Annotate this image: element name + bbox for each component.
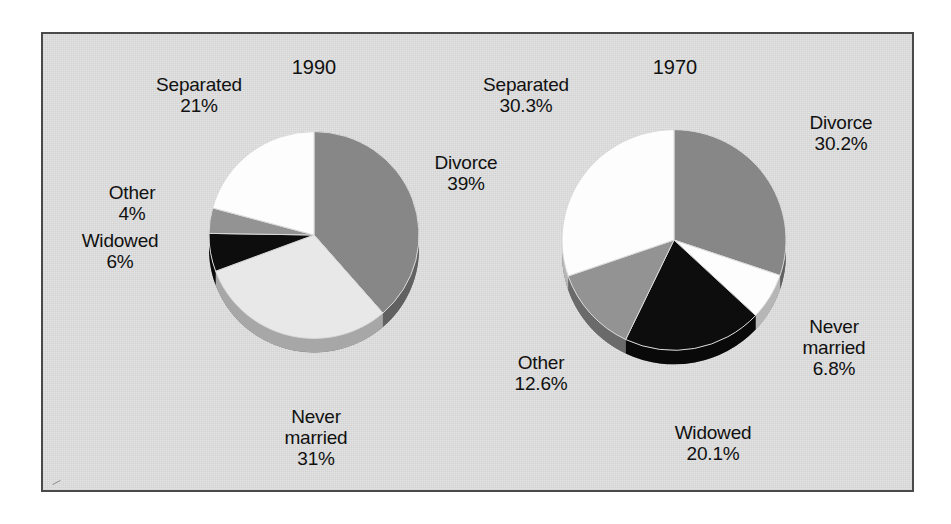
label-left-other: Other 4% <box>87 182 177 224</box>
chart-plate-frame: 1990 Separated 21% Divorce 39% Other 4% … <box>41 32 914 492</box>
label-right-widowed: Widowed 20.1% <box>643 422 783 464</box>
label-right-divorce: Divorce 30.2% <box>781 112 901 154</box>
label-right-separated: Separated 30.3% <box>451 74 601 116</box>
label-left-never-married: Never married 31% <box>256 406 376 469</box>
chart-title-right: 1970 <box>615 56 735 78</box>
pie-1970 <box>562 130 786 365</box>
label-left-widowed: Widowed 6% <box>55 230 185 272</box>
label-left-separated: Separated 21% <box>129 74 269 116</box>
figure-root: 1990 Separated 21% Divorce 39% Other 4% … <box>0 0 951 524</box>
chart-title-left: 1990 <box>254 56 374 78</box>
label-right-never-married: Never married 6.8% <box>774 316 894 379</box>
label-right-other: Other 12.6% <box>486 352 596 394</box>
pie-1990 <box>209 132 419 353</box>
label-left-divorce: Divorce 39% <box>411 152 521 194</box>
